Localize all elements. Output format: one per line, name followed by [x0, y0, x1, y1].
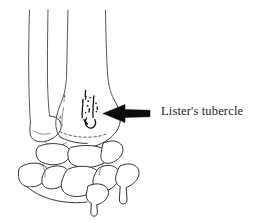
carpal-triquetrum: [101, 141, 123, 163]
ulna-shaft-left-line: [29, 10, 31, 122]
tubercle-stipple-dot-6: [85, 112, 87, 114]
carpal-bones-group: [18, 141, 139, 216]
tubercle-stipple-dot-1: [87, 100, 89, 102]
tubercle-stipple-dot-3: [90, 97, 92, 99]
listers-tubercle-label: Lister's tubercle: [161, 104, 243, 119]
ulna-shaft-right-line: [47, 10, 49, 116]
radius-cortex-dash-upper: [64, 95, 65, 101]
radial-styloid-outline: [87, 99, 120, 148]
tubercle-stipple-dot-5: [96, 111, 98, 113]
metacarpal-base-center: [86, 184, 108, 216]
tubercle-ridge-left: [82, 100, 83, 118]
arrow-tail: [124, 110, 150, 118]
listers-tubercle-detail: [82, 91, 97, 129]
distal-radius-articular-line: [60, 137, 87, 143]
figure-canvas: Lister's tubercle: [0, 0, 256, 223]
carpal-scaphoid: [36, 144, 70, 165]
tubercle-ridge-right: [93, 96, 94, 117]
radius-dorsal-shadow-line: [62, 108, 64, 126]
metacarpal-base-right: [116, 164, 139, 204]
radius-cortex-dash-lower: [60, 116, 61, 122]
tubercle-stipple-dot-2: [87, 105, 89, 107]
radius-shaft-right-line: [106, 10, 114, 99]
tubercle-stipple-dot-4: [95, 103, 97, 105]
ulna-group: [29, 10, 67, 146]
